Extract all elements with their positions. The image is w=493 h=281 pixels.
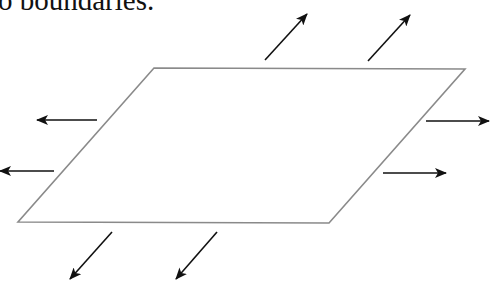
arrow-top-2-icon [368,15,410,61]
arrow-top-1-icon [265,14,307,60]
arrow-bottom-2-icon [176,232,217,279]
parallelogram-sheet [18,68,465,223]
arrow-group [0,14,489,279]
stretched-sheet-diagram [0,0,493,281]
arrow-bottom-1-icon [70,232,112,279]
